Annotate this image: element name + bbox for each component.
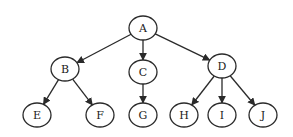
node-b: B [51,57,79,81]
node-d: D [208,54,236,78]
node-label: H [179,109,189,122]
node-label: E [33,109,41,122]
node-f: F [86,103,114,127]
node-label: A [138,22,148,35]
node-label: G [139,109,148,122]
node-h: H [170,103,198,127]
node-label: J [260,109,265,122]
node-label: I [220,109,224,122]
node-i: I [208,103,236,127]
edge-b-f [73,79,93,105]
edge-d-j [230,76,255,105]
node-c: C [129,60,157,84]
node-label: B [61,63,69,76]
node-label: D [218,60,227,73]
node-label: C [139,66,147,79]
node-g: G [129,103,157,127]
nodes: ABCDEFGHIJ [23,16,277,127]
edge-d-h [192,76,214,105]
node-a: A [129,16,157,40]
node-e: E [23,103,51,127]
node-label: F [96,109,104,122]
edge-a-b [77,34,131,62]
edge-a-d [155,34,210,60]
edge-b-e [43,80,58,105]
tree-diagram: ABCDEFGHIJ [0,0,293,137]
node-j: J [249,103,277,127]
